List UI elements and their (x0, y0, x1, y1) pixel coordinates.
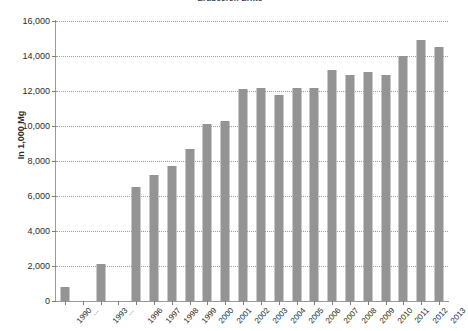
bar-slot (181, 21, 199, 301)
x-tick-label: 2000 (217, 306, 236, 325)
y-tick-label: 6,000 (27, 191, 50, 201)
bar[interactable] (435, 47, 444, 301)
bar[interactable] (132, 187, 141, 301)
x-tick-mark (368, 301, 369, 305)
bar[interactable] (399, 56, 408, 301)
bar-slot (163, 21, 181, 301)
bar[interactable] (185, 149, 194, 301)
x-tick-label: 2013 (449, 306, 468, 325)
bar[interactable] (203, 124, 212, 301)
x-tick-mark (332, 301, 333, 305)
x-tick-mark (279, 301, 280, 305)
x-tick-label: 1996 (146, 306, 165, 325)
x-tick-label: 1997 (164, 306, 183, 325)
x-tick-label: 2007 (342, 306, 361, 325)
x-tick-label: 2002 (253, 306, 272, 325)
x-tick-mark (439, 301, 440, 305)
y-tick-label: 8,000 (27, 156, 50, 166)
x-tick-mark (83, 301, 84, 305)
y-tick-mark (52, 301, 56, 302)
y-tick-label: 4,000 (27, 226, 50, 236)
bar-slot (412, 21, 430, 301)
bar[interactable] (96, 264, 105, 301)
y-tick-label: 16,000 (22, 16, 50, 26)
x-tick-mark (350, 301, 351, 305)
bar[interactable] (310, 88, 319, 302)
bar[interactable] (381, 75, 390, 301)
bar-slot (109, 21, 127, 301)
x-tick-label: 2005 (306, 306, 325, 325)
bar[interactable] (292, 88, 301, 302)
bar[interactable] (149, 175, 158, 301)
chart-title: Erdbeeren Ernte (0, 0, 460, 1)
bar-slot (127, 21, 145, 301)
bar[interactable] (167, 166, 176, 301)
plot-area: 02,0004,0006,0008,00010,00012,00014,0001… (56, 21, 448, 301)
bar-slot (216, 21, 234, 301)
x-tick-label: 1999 (200, 306, 219, 325)
x-tick-label: 2003 (271, 306, 290, 325)
x-tick-mark (207, 301, 208, 305)
x-tick-label: 2011 (413, 306, 431, 325)
x-tick-mark (297, 301, 298, 305)
bar-slot (395, 21, 413, 301)
bar[interactable] (363, 72, 372, 301)
bar[interactable] (274, 95, 283, 302)
x-tick-label: 1998 (182, 306, 201, 325)
x-tick-mark (172, 301, 173, 305)
x-tick-mark (421, 301, 422, 305)
bar-slot (252, 21, 270, 301)
bar[interactable] (328, 70, 337, 301)
bar-slot (430, 21, 448, 301)
x-tick-mark (136, 301, 137, 305)
bar[interactable] (345, 75, 354, 301)
bar-slot (199, 21, 217, 301)
bar-slot (145, 21, 163, 301)
bar[interactable] (417, 40, 426, 301)
bar-slot (305, 21, 323, 301)
x-tick-label: 2009 (378, 306, 397, 325)
bar-slot (234, 21, 252, 301)
gridline (56, 301, 448, 302)
x-tick-mark (154, 301, 155, 305)
y-tick-label: 12,000 (22, 86, 50, 96)
x-tick-mark (190, 301, 191, 305)
x-tick-mark (101, 301, 102, 305)
y-axis-title: In 1,000 Mg (16, 90, 26, 180)
bar-slot (270, 21, 288, 301)
bar-slot (288, 21, 306, 301)
bar[interactable] (60, 287, 69, 301)
x-tick-mark (261, 301, 262, 305)
bar[interactable] (221, 121, 230, 301)
bar[interactable] (256, 88, 265, 302)
x-tick-mark (386, 301, 387, 305)
x-tick-mark (225, 301, 226, 305)
x-tick-mark (118, 301, 119, 305)
x-tick-label: 2012 (431, 306, 450, 325)
x-tick-mark (243, 301, 244, 305)
bar-slot (341, 21, 359, 301)
x-tick-label: 2006 (324, 306, 343, 325)
bar[interactable] (239, 89, 248, 301)
y-tick-label: 2,000 (27, 261, 50, 271)
bar-slot (92, 21, 110, 301)
y-tick-label: 14,000 (22, 51, 50, 61)
x-tick-label: 2010 (396, 306, 415, 325)
bar-slot (74, 21, 92, 301)
bar-slot (56, 21, 74, 301)
y-tick-label: 10,000 (22, 121, 50, 131)
x-tick-label: 2004 (289, 306, 308, 325)
x-tick-mark (403, 301, 404, 305)
bar-slot (359, 21, 377, 301)
x-tick-label: 2008 (360, 306, 379, 325)
x-tick-mark (314, 301, 315, 305)
x-tick-label: 2001 (235, 306, 254, 325)
bar-series (56, 21, 448, 301)
x-tick-mark (65, 301, 66, 305)
x-tick-label: ... (89, 306, 100, 317)
bar-slot (377, 21, 395, 301)
bar-slot (323, 21, 341, 301)
y-tick-label: 0 (45, 296, 50, 306)
